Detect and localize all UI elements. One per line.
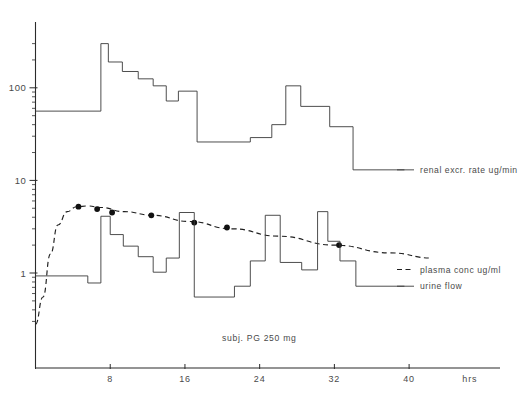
figure-container: 110100816243240hrs renal excr. rate ug/m… — [0, 0, 528, 398]
y-tick-label: 1 — [21, 268, 27, 279]
x-tick-label: 40 — [403, 374, 415, 384]
data-point-marker — [109, 210, 115, 216]
chart-canvas: 110100816243240hrs renal excr. rate ug/m… — [0, 0, 528, 398]
data-point-marker — [336, 242, 342, 248]
plasma-concentration-legend-label: plasma conc ug/ml — [420, 265, 501, 275]
x-axis-unit-label: hrs — [462, 374, 477, 384]
y-tick-label: 100 — [9, 82, 27, 93]
series-curve-plasma-concentration — [36, 206, 433, 324]
axes-group: 110100816243240hrs — [9, 22, 500, 384]
series-step-urine-flow — [36, 212, 405, 297]
data-point-marker — [76, 204, 82, 210]
data-point-marker — [94, 206, 100, 212]
x-tick-label: 24 — [254, 374, 266, 384]
y-tick-label: 10 — [15, 175, 27, 186]
data-point-marker — [224, 225, 230, 231]
series-group — [36, 44, 433, 325]
chart-caption: subj. PG 250 mg — [222, 333, 297, 343]
urine-flow-legend-label: urine flow — [420, 281, 463, 291]
renal-excretion-legend-label: renal excr. rate ug/min — [420, 165, 518, 175]
x-tick-label: 32 — [329, 374, 341, 384]
labels-group: renal excr. rate ug/minplasma conc ug/ml… — [222, 165, 518, 343]
x-tick-label: 8 — [107, 374, 113, 384]
x-tick-label: 16 — [179, 374, 191, 384]
data-point-marker — [148, 212, 154, 218]
series-step-renal-excretion — [36, 44, 405, 170]
